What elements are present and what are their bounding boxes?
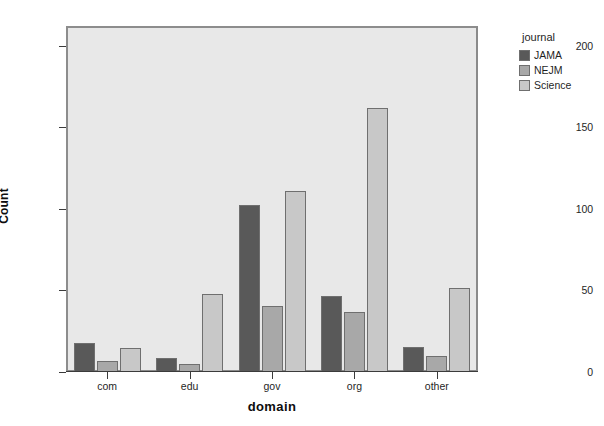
bar-com-jama bbox=[74, 343, 95, 371]
bar-other-nejm bbox=[426, 356, 447, 371]
y-axis-tick bbox=[59, 372, 66, 373]
x-axis-tick bbox=[107, 372, 108, 379]
bar-org-science bbox=[367, 108, 388, 371]
legend-item-label: JAMA bbox=[534, 49, 562, 61]
bar-other-science bbox=[449, 288, 470, 371]
bar-com-science bbox=[120, 348, 141, 371]
bar-chart: Count domain journal JAMANEJMScience 050… bbox=[0, 0, 604, 426]
y-axis-tick-label: 100 bbox=[576, 203, 593, 215]
x-axis-title: domain bbox=[248, 399, 297, 414]
y-axis-title: Count bbox=[0, 188, 11, 224]
x-axis-tick bbox=[190, 372, 191, 379]
x-axis-tick bbox=[437, 372, 438, 379]
y-axis-tick-label: 200 bbox=[576, 40, 593, 52]
legend-item-nejm[interactable]: NEJM bbox=[519, 63, 599, 77]
bar-org-nejm bbox=[344, 312, 365, 371]
bar-org-jama bbox=[321, 296, 342, 371]
y-axis-tick bbox=[59, 46, 66, 47]
y-axis bbox=[66, 26, 68, 372]
legend-swatch-icon bbox=[519, 80, 530, 91]
x-axis-tick bbox=[354, 372, 355, 379]
x-axis-tick bbox=[272, 372, 273, 379]
x-axis-tick-label: edu bbox=[181, 380, 199, 392]
legend-item-label: NEJM bbox=[534, 64, 563, 76]
y-axis-tick-label: 0 bbox=[587, 366, 593, 378]
bar-gov-science bbox=[285, 191, 306, 371]
y-axis-tick bbox=[59, 290, 66, 291]
bar-edu-jama bbox=[156, 358, 177, 371]
y-axis-tick bbox=[59, 209, 66, 210]
legend-item-science[interactable]: Science bbox=[519, 78, 599, 92]
y-axis-tick bbox=[59, 127, 66, 128]
legend-swatch-icon bbox=[519, 50, 530, 61]
x-axis-tick-label: gov bbox=[264, 380, 281, 392]
bar-other-jama bbox=[403, 347, 424, 371]
y-axis-tick-label: 150 bbox=[576, 121, 593, 133]
bar-com-nejm bbox=[97, 361, 118, 371]
legend-item-label: Science bbox=[534, 79, 571, 91]
bar-edu-science bbox=[202, 294, 223, 371]
legend-entries: JAMANEJMScience bbox=[519, 48, 599, 92]
x-axis-tick-label: com bbox=[97, 380, 117, 392]
x-axis-tick-label: org bbox=[347, 380, 362, 392]
bar-gov-nejm bbox=[262, 306, 283, 371]
legend-swatch-icon bbox=[519, 65, 530, 76]
bar-gov-jama bbox=[239, 205, 260, 371]
x-axis-tick-label: other bbox=[425, 380, 449, 392]
bars-layer bbox=[68, 28, 476, 371]
y-axis-tick-label: 50 bbox=[582, 284, 593, 296]
